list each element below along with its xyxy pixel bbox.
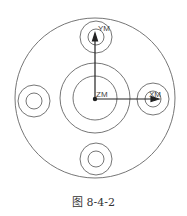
z-axis-label: ZM <box>96 90 108 99</box>
figure-caption: 图 8-4-2 <box>0 193 187 209</box>
x-axis-label: XM <box>149 90 161 99</box>
y-axis-label: YM <box>98 24 110 33</box>
part-drawing: YM XM ZM <box>0 0 187 216</box>
left-boss-outer <box>18 85 50 117</box>
left-boss-hole <box>26 93 42 109</box>
bottom-boss-outer <box>80 143 112 175</box>
bottom-boss-hole <box>88 151 104 167</box>
y-axis-arrowhead <box>93 33 98 41</box>
